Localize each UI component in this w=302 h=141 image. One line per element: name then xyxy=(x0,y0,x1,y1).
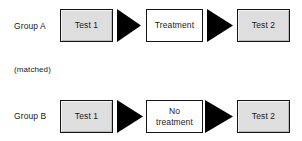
group-b-stage-test-1: Test 1 xyxy=(60,100,113,133)
matched-note-label: (matched) xyxy=(14,66,51,74)
group-a-stage-test-2: Test 2 xyxy=(237,9,290,42)
group-b-label: Group B xyxy=(14,112,46,121)
diagram-canvas: Group A Test 1 Treatment Test 2 (matched… xyxy=(0,0,302,141)
group-a-stage-test-1: Test 1 xyxy=(60,9,113,42)
group-a-stage-test-2-text: Test 2 xyxy=(252,20,275,31)
group-a-label: Group A xyxy=(14,22,46,31)
group-b-stage-test-1-text: Test 1 xyxy=(75,111,98,122)
group-a-stage-treatment-text: Treatment xyxy=(155,20,194,31)
arrow-right-icon xyxy=(205,100,233,133)
arrow-right-icon xyxy=(207,9,233,42)
group-b-stage-test-2: Test 2 xyxy=(237,100,290,133)
group-b-stage-no-treatment-text: No treatment xyxy=(156,106,193,127)
group-a-stage-test-1-text: Test 1 xyxy=(75,20,98,31)
group-a-stage-treatment: Treatment xyxy=(146,9,203,42)
group-b-stage-test-2-text: Test 2 xyxy=(252,111,275,122)
group-b-stage-no-treatment: No treatment xyxy=(146,100,203,133)
arrow-right-icon xyxy=(117,9,141,42)
arrow-right-icon xyxy=(117,100,143,133)
